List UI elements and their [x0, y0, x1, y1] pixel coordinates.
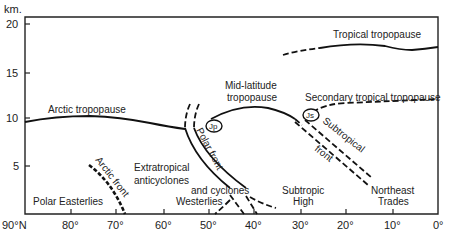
x-tick-80: 80° [62, 219, 79, 231]
x-tick-30: 30° [292, 219, 309, 231]
x-tick-70: 70° [107, 219, 124, 231]
polar-easterlies-label: Polar Easterlies [33, 196, 103, 207]
polar-front-upper-dashed-right [194, 104, 199, 128]
westerlies-label: Westerlies [176, 196, 223, 207]
y-tick-15: 15 [6, 67, 18, 79]
polar-front-label: Polar front [194, 126, 225, 172]
subtropic-label-1: Subtropic [282, 185, 324, 196]
northeast-label-2: Trades [378, 196, 409, 207]
x-tick-20: 20° [337, 219, 354, 231]
y-axis-ticks: 20 15 10 5 [6, 18, 30, 172]
mid-latitude-label-2: tropopause [227, 92, 277, 103]
extratropical-label-1: Extratropical [134, 162, 190, 173]
atmospheric-circulation-diagram: km. 20 15 10 5 90°N 80° 70° 60° 50° 40° … [0, 0, 458, 238]
tropical-tropopause-line [320, 44, 438, 50]
x-tick-50: 50° [200, 219, 217, 231]
polar-front-lower-dashed-left [230, 195, 244, 214]
northeast-label-1: Northeast [371, 185, 415, 196]
x-axis-ticks: 90°N 80° 70° 60° 50° 40° 30° 20° 10° 0° [2, 209, 444, 231]
tropical-tropopause-dashed [283, 48, 320, 55]
y-tick-20: 20 [6, 18, 18, 30]
polar-jet-label: Jp [209, 122, 218, 131]
x-tick-10: 10° [384, 219, 401, 231]
x-tick-0: 0° [433, 219, 444, 231]
arctic-tropopause-line [25, 116, 185, 129]
x-tick-60: 60° [155, 219, 172, 231]
tropical-tropopause-label: Tropical tropopause [333, 29, 421, 40]
x-tick-90n: 90°N [2, 219, 27, 231]
subtropic-label-2: High [293, 196, 314, 207]
arctic-tropopause-label: Arctic tropopause [48, 104, 126, 115]
cyclone-front-right [250, 197, 276, 208]
polar-front-upper-dashed-left [185, 104, 190, 128]
subtropical-jet-label: Js [306, 111, 314, 120]
mid-latitude-tropopause-line [211, 107, 295, 119]
and-cyclones-label: and cyclones [191, 185, 249, 196]
secondary-tropical-tropopause-label: Secondary tropical tropopause [305, 92, 441, 103]
mid-latitude-label-1: Mid-latitude [225, 80, 277, 91]
x-tick-40: 40° [245, 219, 262, 231]
y-tick-10: 10 [6, 112, 18, 124]
extratropical-label-2: anticyclones [134, 175, 189, 186]
subtropical-front-label: front [313, 143, 336, 164]
y-axis-unit: km. [4, 3, 22, 15]
y-tick-5: 5 [13, 160, 19, 172]
